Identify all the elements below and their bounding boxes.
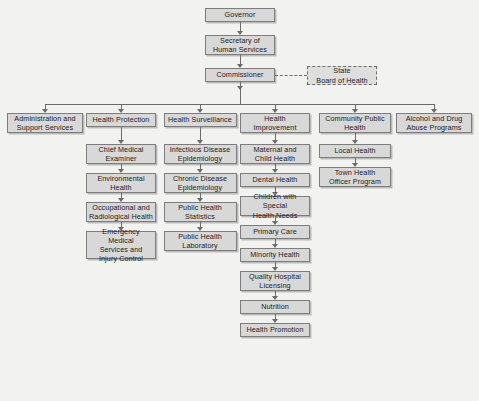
node-division-3-child-3-label: Primary Care (243, 227, 307, 236)
node-division-2: Health Surveillance (164, 113, 237, 127)
node-division-2-child-1: Chronic DiseaseEpidemiology (164, 173, 237, 193)
node-division-3-child-1: Dental Health (240, 173, 310, 187)
node-division-0-label: Administration andSupport Services (10, 114, 80, 132)
node-division-1-child-2: Occupational andRadiological Health (86, 202, 156, 222)
node-division-4-child-1-label: Town HealthOfficer Program (322, 168, 388, 186)
node-division-2-child-0-label: Infectious DiseaseEpidemiology (167, 145, 234, 163)
node-division-3-child-5-label: Quality HospitalLicensing (243, 272, 307, 290)
node-division-1: Health Protection (86, 113, 156, 127)
connector-commissioner-state-board (275, 75, 307, 76)
node-division-3-child-7: Health Promotion (240, 323, 310, 337)
node-division-3-child-2: Children with SpecialHealth Needs (240, 196, 310, 216)
node-division-1-label: Health Protection (89, 115, 153, 124)
node-division-1-child-0-label: Chief MedicalExaminer (89, 145, 153, 163)
node-division-5-label: Alcohol and DrugAbuse Programs (399, 114, 469, 132)
node-division-5: Alcohol and DrugAbuse Programs (396, 113, 472, 133)
node-division-3-child-6-label: Nutrition (243, 302, 307, 311)
node-governor: Governor (205, 8, 275, 22)
node-division-3-child-4: Minority Health (240, 248, 310, 262)
node-division-3-child-7-label: Health Promotion (243, 325, 307, 334)
node-division-2-child-1-label: Chronic DiseaseEpidemiology (167, 174, 234, 192)
node-division-3-child-3: Primary Care (240, 225, 310, 239)
node-division-1-child-3: Emergency MedicalServices andInjury Cont… (86, 231, 156, 259)
node-division-1-child-3-label: Emergency MedicalServices andInjury Cont… (89, 227, 153, 264)
connector-division-2-child-0-line (200, 127, 201, 140)
connector-division-3-child-0-line (275, 133, 276, 140)
node-division-3-child-4-label: Minority Health (243, 250, 307, 259)
bus-horizontal (45, 104, 434, 105)
node-division-2-child-0: Infectious DiseaseEpidemiology (164, 144, 237, 164)
node-division-2-child-3-label: Public HealthLaboratory (167, 232, 234, 250)
node-governor-label: Governor (208, 10, 272, 19)
node-division-3-child-0-label: Maternal andChild Health (243, 145, 307, 163)
connector-bus-arrow (237, 86, 243, 90)
connector-division-4-child-0-line (355, 133, 356, 140)
node-division-1-child-1-label: EnvironmentalHealth (89, 174, 153, 192)
node-division-4-child-0: Local Health (319, 144, 391, 158)
node-state-board: StateBoard of Health (307, 66, 377, 85)
node-division-2-child-3: Public HealthLaboratory (164, 231, 237, 251)
node-division-4-label: Community PublicHealth (322, 114, 388, 132)
node-division-3-label: HealthImprovement (243, 114, 307, 132)
connector-secretary-commissioner-line (240, 55, 241, 64)
node-division-2-label: Health Surveillance (167, 115, 234, 124)
org-chart: GovernorSecretary ofHuman ServicesCommis… (0, 0, 479, 401)
node-secretary: Secretary ofHuman Services (205, 35, 275, 55)
node-division-1-child-2-label: Occupational andRadiological Health (89, 203, 153, 221)
node-division-3: HealthImprovement (240, 113, 310, 133)
node-division-4: Community PublicHealth (319, 113, 391, 133)
connector-division-1-child-0-line (121, 127, 122, 140)
node-division-1-child-0: Chief MedicalExaminer (86, 144, 156, 164)
node-division-4-child-1: Town HealthOfficer Program (319, 167, 391, 187)
node-division-3-child-6: Nutrition (240, 300, 310, 314)
node-commissioner: Commissioner (205, 68, 275, 82)
node-division-3-child-5: Quality HospitalLicensing (240, 271, 310, 291)
node-division-4-child-0-label: Local Health (322, 146, 388, 155)
connector-governor-secretary-line (240, 22, 241, 31)
node-division-3-child-0: Maternal andChild Health (240, 144, 310, 164)
node-division-1-child-1: EnvironmentalHealth (86, 173, 156, 193)
node-division-3-child-1-label: Dental Health (243, 175, 307, 184)
node-secretary-label: Secretary ofHuman Services (208, 36, 272, 54)
node-state-board-label: StateBoard of Health (310, 66, 374, 84)
node-division-2-child-2: Public HealthStatistics (164, 202, 237, 222)
node-division-2-child-2-label: Public HealthStatistics (167, 203, 234, 221)
node-division-0: Administration andSupport Services (7, 113, 83, 133)
node-commissioner-label: Commissioner (208, 70, 272, 79)
